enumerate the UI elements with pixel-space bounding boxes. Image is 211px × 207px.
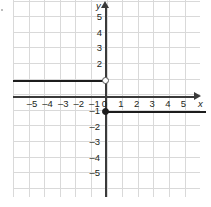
x-tick-label: –3 — [55, 99, 71, 109]
y-tick-label: 3 — [86, 43, 102, 53]
x-tick-label: 5 — [175, 99, 191, 109]
closed-endpoint-marker — [102, 108, 109, 115]
y-axis-arrow-icon — [101, 1, 109, 8]
function-ray-left — [13, 80, 105, 82]
x-tick-label: –5 — [24, 99, 40, 109]
open-endpoint-marker — [102, 77, 109, 84]
function-ray-right — [105, 111, 206, 113]
y-tick-label: –4 — [84, 153, 100, 163]
graph-canvas: x y –5 –4 –3 –2 –1 0 1 2 3 4 5 5 4 3 2 –… — [0, 0, 211, 207]
y-tick-label: –5 — [84, 168, 100, 178]
y-tick-label: –3 — [84, 137, 100, 147]
y-tick-label: –2 — [84, 122, 100, 132]
x-tick-label: –4 — [40, 99, 56, 109]
x-tick-label: 2 — [129, 99, 145, 109]
y-axis-label: y — [96, 1, 101, 11]
y-tick-label: 4 — [86, 28, 102, 38]
y-tick-label: 2 — [86, 59, 102, 69]
corner-artifact — [1, 9, 3, 11]
x-tick-label: 4 — [160, 99, 176, 109]
x-axis-label: x — [198, 99, 203, 109]
x-tick-label: 1 — [113, 99, 129, 109]
x-tick-label: 3 — [144, 99, 160, 109]
y-tick-label: 5 — [86, 12, 102, 22]
y-tick-label: –1 — [84, 106, 100, 116]
grid-line-vertical — [13, 0, 14, 197]
